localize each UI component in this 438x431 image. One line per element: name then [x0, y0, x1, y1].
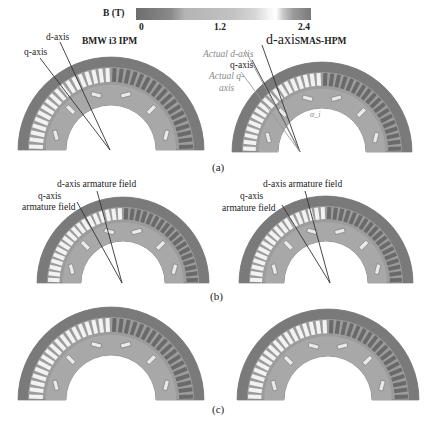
d-armature-field-right: d-axis armature field [263, 180, 342, 190]
actual-d-axis-label: Actual d-axis [203, 50, 253, 60]
actual-q-axis-label-2: axis [219, 84, 234, 94]
q-axis-label-right: q-axis [230, 61, 253, 71]
motor-title-mas-hpm: MAS-HPM [300, 37, 346, 47]
caption-c: (c) [212, 404, 224, 415]
q-axis-text: q-axis [24, 47, 47, 57]
motor-cross-sections [0, 0, 438, 431]
d-axis-label-left: d-axis [46, 33, 69, 43]
q-axis-label-left: q-axis [24, 48, 47, 58]
motor-title-bmw: BMW i3 IPM [82, 37, 137, 47]
d-armature-field-left: d-axis armature field [57, 180, 136, 190]
d-axis-label-right: d-axis [266, 33, 300, 47]
motor-c-left [18, 307, 204, 400]
actual-q-axis-label-1: Actual q- [209, 72, 244, 82]
angle-alpha-label: α_i [310, 111, 320, 119]
q-armature-field-left-2: armature field [22, 203, 76, 213]
q-armature-field-right-1: q-axis [240, 192, 263, 202]
caption-b: (b) [210, 291, 223, 302]
motor-c-right [237, 309, 419, 400]
motor-a-left [18, 57, 204, 150]
q-armature-field-left-1: q-axis [38, 192, 61, 202]
d-axis-text: d-axis [46, 32, 69, 42]
caption-a: (a) [212, 162, 224, 173]
q-armature-field-right-2: armature field [222, 204, 276, 214]
